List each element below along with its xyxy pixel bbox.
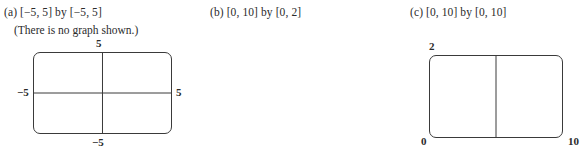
panel-a-note: (There is no graph shown.) — [14, 24, 138, 37]
panel-a-label-top: 5 — [96, 38, 102, 49]
panel-a-label-bottom: −5 — [92, 137, 104, 148]
panel-c-caption: (c) [0, 10] by [0, 10] — [410, 6, 506, 19]
panel-a-label-left: −5 — [17, 87, 29, 98]
viewing-window-panel-c: (c) [0, 10] by [0, 10] 10 0 10 — [390, 0, 581, 162]
viewing-window-panel-a: (a) [−5, 5] by [−5, 5] (There is no grap… — [0, 0, 200, 162]
calculator-screen-a — [33, 52, 172, 134]
panel-a-caption: (a) [−5, 5] by [−5, 5] — [4, 6, 102, 19]
panel-a-axes-graphic — [34, 53, 171, 133]
viewing-window-panel-b: (b) [0, 10] by [0, 2] 2 0 10 — [200, 0, 390, 162]
panel-a-label-right: 5 — [176, 87, 182, 98]
panel-b-caption: (b) [0, 10] by [0, 2] — [210, 6, 301, 19]
